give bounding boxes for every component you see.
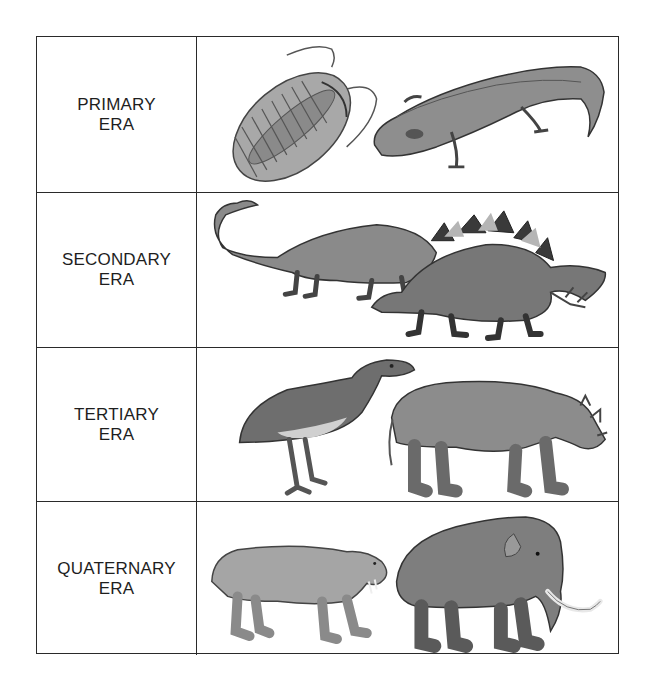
era-illustration-cell (197, 502, 618, 655)
era-row-tertiary: TERTIARY ERA (37, 347, 618, 501)
trilobite-illustration (213, 47, 377, 192)
era-label-cell: QUATERNARY ERA (37, 502, 197, 655)
uintatherium-illustration (389, 382, 607, 492)
era-name: TERTIARY (74, 405, 159, 425)
era-row-quaternary: QUATERNARY ERA (37, 501, 618, 655)
era-suffix: ERA (99, 270, 135, 290)
era-suffix: ERA (99, 425, 135, 445)
era-illustration-cell (197, 348, 618, 501)
amphibian-illustration (374, 67, 604, 167)
saber-toothed-cat-illustration (212, 546, 387, 639)
era-illustration-cell (197, 193, 618, 347)
era-label-cell: PRIMARY ERA (37, 37, 197, 192)
secondary-era-illustration (197, 193, 618, 347)
era-row-primary: PRIMARY ERA (37, 37, 618, 192)
era-name: SECONDARY (62, 250, 171, 270)
sauropod-illustration (215, 201, 437, 298)
era-name: PRIMARY (77, 95, 156, 115)
era-name: QUATERNARY (57, 559, 176, 579)
eras-table: PRIMARY ERA (36, 36, 619, 654)
era-row-secondary: SECONDARY ERA (37, 192, 618, 347)
terror-bird-illustration (240, 360, 415, 493)
mammoth-illustration (397, 517, 601, 646)
era-illustration-cell (197, 37, 618, 192)
era-label-cell: SECONDARY ERA (37, 193, 197, 347)
era-suffix: ERA (99, 115, 135, 135)
era-suffix: ERA (99, 579, 135, 599)
primary-era-illustration (197, 37, 618, 192)
tertiary-era-illustration (197, 348, 618, 501)
quaternary-era-illustration (197, 502, 618, 655)
era-label-cell: TERTIARY ERA (37, 348, 197, 501)
